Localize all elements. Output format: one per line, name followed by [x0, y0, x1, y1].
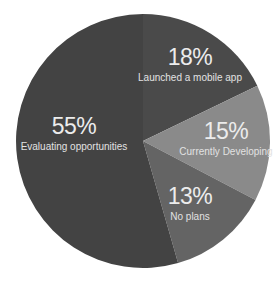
slice-label-launched: 18% Launched a mobile app [138, 46, 242, 83]
slice-label-evaluating: 55% Evaluating opportunities [21, 115, 128, 152]
slice-name: Currently Developing [179, 147, 272, 157]
slice-percent: 18% [138, 46, 242, 69]
slice-name: Evaluating opportunities [21, 142, 128, 152]
slice-percent: 55% [21, 115, 128, 138]
slice-name: No plans [168, 212, 213, 222]
slice-percent: 15% [179, 120, 272, 143]
slice-label-developing: 15% Currently Developing [179, 120, 272, 157]
slice-name: Launched a mobile app [138, 73, 242, 83]
slice-label-no-plans: 13% No plans [168, 185, 213, 222]
slice-percent: 13% [168, 185, 213, 208]
